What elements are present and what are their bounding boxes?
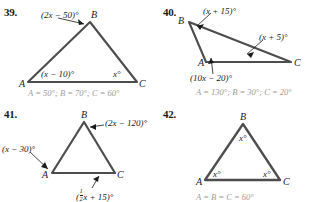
angle-c-expression-41: (12x + 15)°: [76, 188, 113, 202]
vertex-label-a-41: A: [42, 170, 48, 180]
angle-b-expression-39: (2x − 50)°: [41, 11, 79, 20]
angle-a-expression-42: x°: [213, 170, 221, 179]
problem-42-answer: A = B = C = 60°: [196, 193, 254, 202]
vertex-label-c-40: C: [294, 58, 301, 68]
fraction-rest-41: x + 15)°: [83, 192, 113, 202]
leader-line-c-40: [247, 40, 263, 54]
angle-a-expression-41: (x − 30)°: [2, 145, 35, 154]
problem-40-answer: A = 130°; B = 30°; C = 20°: [196, 88, 292, 97]
angle-c-expression-42: x°: [263, 170, 271, 179]
angle-b-expression-40: (x + 15)°: [203, 7, 236, 16]
angle-b-expression-41: (2x − 120)°: [105, 119, 147, 128]
triangle-40-shape: [189, 22, 291, 62]
vertex-label-a-40: A: [198, 58, 204, 68]
problem-39-answer: A = 50°; B = 70°; C = 60°: [28, 89, 119, 98]
angle-c-expression-39: x°: [113, 70, 121, 79]
vertex-label-a-39: A: [19, 79, 25, 89]
triangle-41-shape: [52, 122, 115, 173]
vertex-label-b-42: B: [240, 112, 246, 122]
vertex-label-a-42: A: [196, 177, 202, 187]
vertex-label-c-41: C: [117, 170, 124, 180]
vertex-label-b-40: B: [178, 16, 184, 26]
vertex-label-c-39: C: [139, 79, 146, 89]
angle-a-expression-40: (10x − 20)°: [190, 74, 232, 83]
problem-42-figure: [159, 100, 318, 202]
angle-a-expression-39: (x − 10)°: [41, 70, 74, 79]
vertex-label-b-41: B: [81, 110, 87, 120]
vertex-label-c-42: C: [283, 177, 290, 187]
arrowhead-b-41: [90, 124, 96, 130]
worksheet-page: 39. B A C (2x − 50)° (x − 10)° x° A = 50…: [0, 0, 318, 202]
angle-c-expression-40: (x + 5)°: [259, 33, 288, 42]
vertex-label-b-39: B: [91, 10, 97, 20]
angle-b-expression-42: x°: [239, 134, 247, 143]
triangle-42-svg: [159, 100, 318, 202]
